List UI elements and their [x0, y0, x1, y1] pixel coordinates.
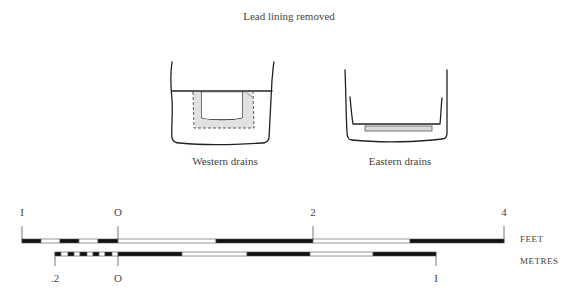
feet-tick-label: 4	[501, 206, 507, 218]
scale-segment	[247, 252, 310, 256]
feet-scale-bar	[22, 239, 504, 243]
scale-segment	[112, 252, 118, 256]
scale-segment	[410, 239, 504, 243]
scale-segment	[105, 252, 112, 256]
scale-segment	[373, 252, 436, 256]
scale-segment	[74, 252, 80, 256]
scale-segment	[80, 252, 87, 256]
scale-segment	[118, 252, 182, 256]
scale-segment	[313, 239, 410, 243]
scale-segment	[118, 239, 216, 243]
scale-segment	[22, 239, 41, 243]
metres-unit-label: METRES	[520, 256, 559, 266]
scale-segment	[60, 239, 79, 243]
metres-tick-label: .2	[51, 272, 59, 284]
scale-segment	[98, 239, 118, 243]
feet-unit-label: FEET	[520, 234, 544, 244]
scale-segment	[182, 252, 247, 256]
scale-segment	[87, 252, 93, 256]
scale-bars	[0, 0, 578, 303]
scale-segment	[41, 239, 60, 243]
metres-tick-label: O	[114, 272, 122, 284]
scale-segment	[61, 252, 68, 256]
scale-segment	[310, 252, 373, 256]
scale-segment	[93, 252, 99, 256]
scale-segment	[79, 239, 98, 243]
scale-segment	[55, 252, 61, 256]
scale-segment	[99, 252, 105, 256]
metres-tick-label: I	[434, 272, 438, 284]
feet-tick-label: I	[20, 206, 24, 218]
feet-tick-label: O	[114, 206, 122, 218]
feet-tick-label: 2	[310, 206, 316, 218]
metres-scale-bar	[55, 252, 436, 256]
scale-segment	[68, 252, 74, 256]
scale-segment	[216, 239, 313, 243]
